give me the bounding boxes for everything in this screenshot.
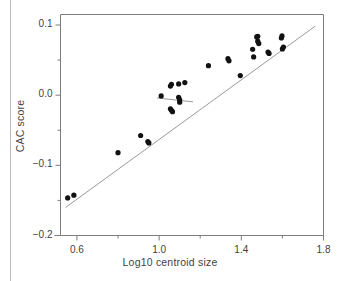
y-tick-label: 0.1 — [9, 18, 53, 29]
y-axis-label: CAC score — [14, 76, 26, 176]
trend-lines — [66, 26, 316, 207]
data-point — [182, 80, 187, 85]
data-point — [279, 33, 284, 38]
data-point — [226, 58, 231, 63]
axis-ticks — [56, 25, 324, 240]
data-point — [176, 81, 181, 86]
data-point — [146, 140, 151, 145]
x-tick-label: 1.0 — [139, 244, 179, 255]
data-point — [251, 54, 256, 59]
data-point — [71, 193, 76, 198]
x-axis-label: Log10 centroid size — [0, 256, 340, 268]
x-tick-label: 1.4 — [221, 244, 261, 255]
data-point — [177, 100, 182, 105]
data-point — [266, 51, 271, 56]
x-tick-label: 1.8 — [304, 244, 340, 255]
data-point — [170, 109, 175, 114]
data-point — [250, 47, 255, 52]
data-point — [256, 41, 261, 46]
secondary-short-line — [157, 98, 193, 102]
y-tick-label: −0.2 — [9, 229, 53, 240]
data-point — [281, 45, 286, 50]
main-regression-line — [66, 26, 316, 207]
data-point — [115, 150, 120, 155]
data-point — [159, 93, 164, 98]
data-point — [254, 34, 259, 39]
data-point — [169, 82, 174, 87]
data-point — [138, 133, 143, 138]
x-tick-label: 0.6 — [57, 244, 97, 255]
data-point — [65, 195, 70, 200]
data-points — [65, 33, 286, 200]
figure-panel: 0.10.0−0.1−0.20.61.01.41.8 Log10 centroi… — [0, 0, 340, 281]
data-point — [206, 63, 211, 68]
data-point — [238, 73, 243, 78]
